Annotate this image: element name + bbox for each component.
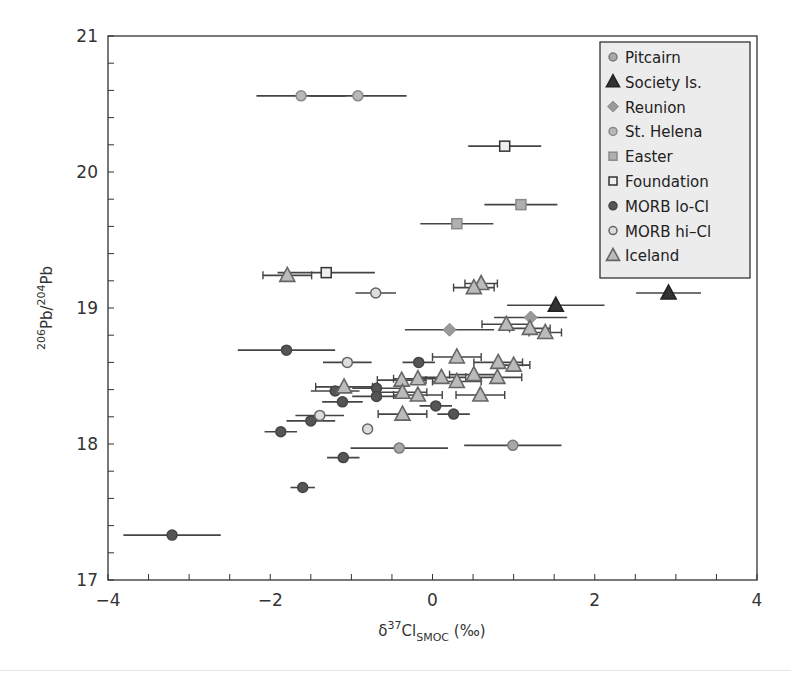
x-tick-label: 0 [427, 590, 438, 610]
marker-iceland [395, 406, 410, 420]
marker-morb-hi-cl [371, 288, 381, 298]
x-tick-label: −4 [95, 590, 120, 610]
marker-pitcairn [508, 440, 518, 450]
legend-label: Pitcairn [625, 49, 681, 67]
legend-icon-pitcairn-icon [609, 53, 617, 61]
marker-morb-hi-cl [315, 410, 325, 420]
bottom-divider [0, 670, 791, 671]
marker-iceland [434, 369, 449, 383]
legend-icon-morb-lo-cl-icon [609, 202, 617, 210]
legend-label: Society Is. [625, 74, 702, 92]
marker-iceland [490, 369, 505, 383]
y-axis-label: 206Pb/204Pb [35, 266, 56, 350]
marker-society-is- [661, 285, 676, 299]
legend-icon-st-helena-icon [609, 127, 617, 135]
legend-label: Iceland [625, 247, 679, 265]
marker-morb-lo-cl [431, 401, 441, 411]
legend-label: Foundation [625, 173, 709, 191]
y-tick-label: 21 [76, 26, 98, 46]
marker-iceland [449, 373, 464, 387]
x-tick-label: 2 [589, 590, 600, 610]
marker-morb-lo-cl [276, 427, 286, 437]
y-tick-label: 20 [76, 162, 98, 182]
legend-label: St. Helena [625, 123, 703, 141]
marker-iceland [466, 367, 481, 381]
marker-iceland [499, 316, 514, 330]
legend-label: MORB hi–Cl [625, 223, 711, 241]
marker-iceland [491, 354, 506, 368]
legend-icon-foundation-icon [609, 177, 617, 185]
marker-iceland [337, 379, 352, 393]
x-tick-label: 4 [752, 590, 763, 610]
legend-label: Easter [625, 148, 674, 166]
marker-morb-lo-cl [281, 345, 291, 355]
y-tick-label: 19 [76, 298, 98, 318]
marker-easter [516, 200, 526, 210]
marker-foundation [321, 268, 331, 278]
marker-morb-hi-cl [342, 357, 352, 367]
marker-st-helena [296, 91, 306, 101]
marker-morb-lo-cl [337, 397, 347, 407]
marker-morb-lo-cl [306, 416, 316, 426]
scatter-chart: −4−20241718192021 PitcairnSociety Is.Reu… [0, 0, 791, 678]
marker-iceland [506, 357, 521, 371]
legend-label: MORB lo-Cl [625, 198, 709, 216]
legend-label: Reunion [625, 99, 686, 117]
marker-st-helena [353, 91, 363, 101]
legend-icon-morb-hi-cl-icon [609, 227, 617, 235]
marker-iceland [449, 349, 464, 363]
marker-morb-lo-cl [298, 483, 308, 493]
legend-icon-easter-icon [609, 152, 617, 160]
x-tick-label: −2 [258, 590, 283, 610]
marker-iceland [280, 267, 295, 281]
marker-easter [452, 219, 462, 229]
marker-morb-lo-cl [338, 453, 348, 463]
y-tick-label: 17 [76, 570, 98, 590]
marker-iceland [410, 387, 425, 401]
marker-pitcairn [394, 443, 404, 453]
marker-morb-hi-cl [363, 424, 373, 434]
marker-reunion [443, 323, 456, 336]
marker-morb-lo-cl [372, 391, 382, 401]
marker-morb-lo-cl [449, 409, 459, 419]
y-tick-label: 18 [76, 434, 98, 454]
marker-society-is- [548, 297, 563, 311]
marker-morb-lo-cl [414, 357, 424, 367]
marker-iceland [522, 320, 537, 334]
x-axis-label: δ37ClSMOC (‰) [378, 619, 485, 644]
legend: PitcairnSociety Is.ReunionSt. HelenaEast… [600, 42, 750, 278]
marker-iceland [473, 387, 488, 401]
marker-morb-lo-cl [167, 530, 177, 540]
marker-foundation [500, 141, 510, 151]
